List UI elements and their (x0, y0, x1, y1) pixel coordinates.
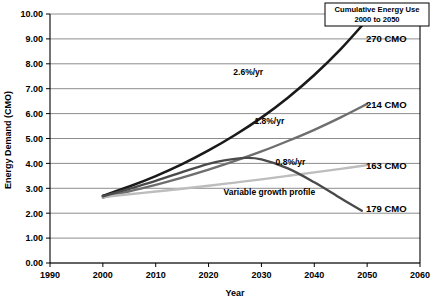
x-tick-label: 2020 (199, 270, 219, 280)
annotation-label: 0.8%/yr (276, 157, 306, 167)
x-tick-label: 2060 (410, 270, 430, 280)
x-tick-label: 2030 (251, 270, 271, 280)
annotation-label: 1.8%/yr (254, 116, 284, 126)
x-tick-label: 2050 (357, 270, 377, 280)
chart-container: 0.001.002.003.004.005.006.007.008.009.00… (0, 0, 433, 303)
cumulative-label: 214 CMO (366, 99, 407, 110)
y-tick-label: 0.00 (25, 258, 43, 268)
legend-line-2: 2000 to 2050 (354, 15, 399, 24)
y-tick-label: 8.00 (25, 59, 43, 69)
cumulative-label: 270 CMO (366, 33, 407, 44)
y-tick-label: 3.00 (25, 184, 43, 194)
y-tick-label: 4.00 (25, 159, 43, 169)
y-tick-label: 2.00 (25, 209, 43, 219)
legend-line-1: Cumulative Energy Use (335, 5, 420, 14)
annotation-label: 2.6%/yr (233, 67, 263, 77)
y-tick-label: 6.00 (25, 109, 43, 119)
legend-box: Cumulative Energy Use 2000 to 2050 (325, 3, 429, 26)
annotation-label: Variable growth profile (224, 187, 316, 197)
chart-background (0, 0, 433, 303)
y-tick-label: 5.00 (25, 134, 43, 144)
x-tick-label: 2010 (146, 270, 166, 280)
cumulative-label: 179 CMO (366, 203, 407, 214)
energy-demand-line-chart: 0.001.002.003.004.005.006.007.008.009.00… (0, 0, 433, 303)
y-tick-label: 10.00 (20, 9, 43, 19)
x-tick-label: 2000 (93, 270, 113, 280)
x-tick-label: 1990 (40, 270, 60, 280)
x-tick-label: 2040 (304, 270, 324, 280)
y-axis-title: Energy Demand (CMO) (3, 91, 13, 189)
x-axis-title: Year (225, 288, 245, 298)
y-tick-label: 1.00 (25, 233, 43, 243)
cumulative-label: 163 CMO (366, 160, 407, 171)
y-tick-label: 7.00 (25, 84, 43, 94)
y-tick-label: 9.00 (25, 34, 43, 44)
